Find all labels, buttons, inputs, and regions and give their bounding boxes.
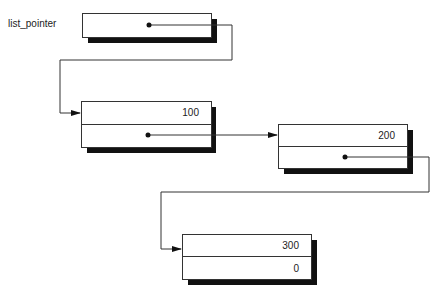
node1-pointer-dot-icon (146, 133, 151, 138)
edge-head-node1 (60, 25, 232, 113)
connectors (0, 0, 442, 298)
edge-node2-node3 (161, 157, 429, 249)
node2-pointer-dot-icon (343, 155, 348, 160)
head-pointer-dot-icon (147, 23, 152, 28)
